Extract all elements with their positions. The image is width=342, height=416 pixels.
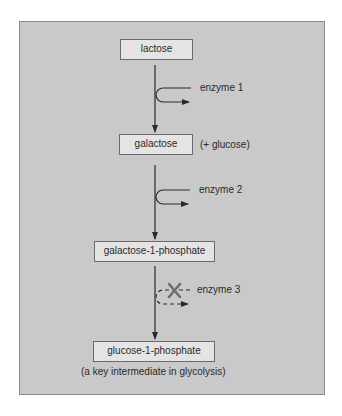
node-label: glucose-1-phosphate <box>107 345 200 356</box>
blocked-x-icon <box>169 284 180 297</box>
enzyme-1-label: enzyme 1 <box>200 82 243 93</box>
node-galactose: galactose <box>119 134 193 155</box>
node-label: galactose <box>135 138 178 149</box>
node-label: lactose <box>141 43 173 54</box>
node-lactose: lactose <box>120 39 193 60</box>
enzyme-2-label: enzyme 2 <box>199 184 242 195</box>
enzyme-1-arrow <box>156 88 191 102</box>
node-galactose-1-phosphate: galactose-1-phosphate <box>94 241 215 262</box>
node-glucose-1-phosphate: glucose-1-phosphate <box>93 341 215 362</box>
glucose-1-phosphate-note: (a key intermediate in glycolysis) <box>81 366 226 377</box>
galactose-note: (+ glucose) <box>200 139 250 150</box>
enzyme-2-arrow <box>156 190 190 204</box>
enzyme-3-label: enzyme 3 <box>197 284 240 295</box>
node-label: galactose-1-phosphate <box>104 245 206 256</box>
